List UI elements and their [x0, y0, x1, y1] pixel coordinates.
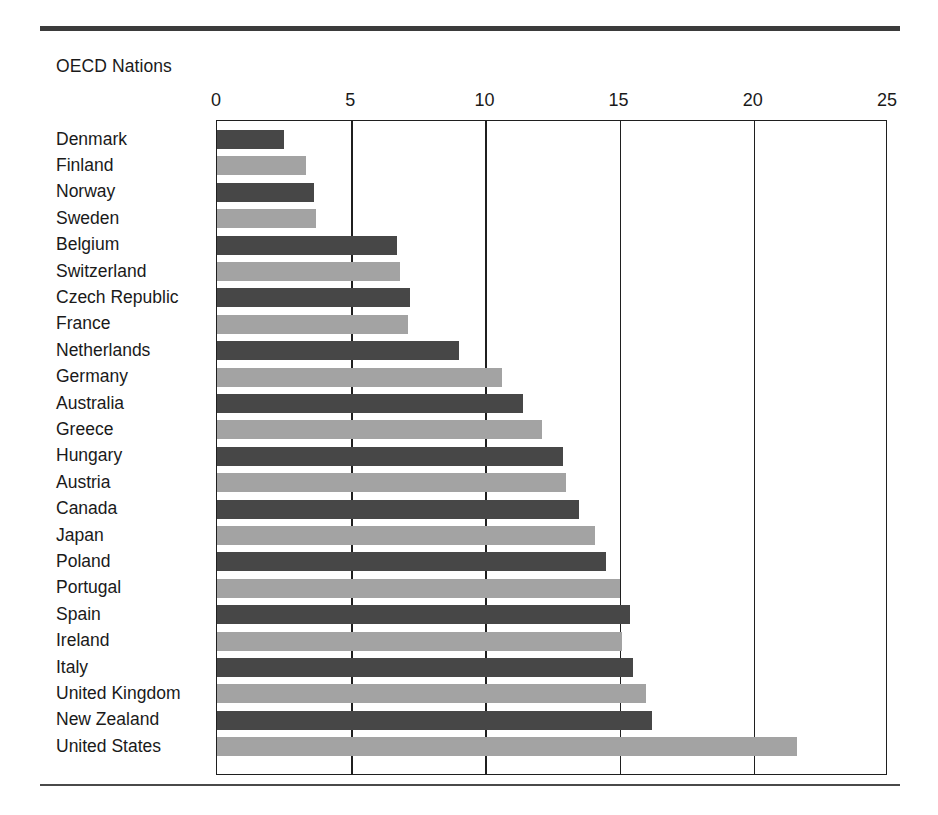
category-label: United Kingdom [56, 685, 181, 703]
gridline-20 [754, 121, 756, 774]
bar [217, 209, 316, 228]
bar [217, 447, 563, 466]
x-tick-label: 5 [345, 90, 355, 111]
x-tick-label: 20 [743, 90, 763, 111]
bottom-rule [40, 784, 900, 786]
bar [217, 183, 314, 202]
category-label: France [56, 315, 110, 333]
category-label: Spain [56, 606, 101, 624]
bar [217, 130, 284, 149]
bar [217, 552, 606, 571]
plot-area [216, 120, 887, 775]
x-tick-label: 25 [877, 90, 897, 111]
bar [217, 473, 566, 492]
bar [217, 579, 620, 598]
bar [217, 394, 523, 413]
bar [217, 368, 502, 387]
bar [217, 605, 630, 624]
bar [217, 658, 633, 677]
category-label: Norway [56, 183, 115, 201]
bar [217, 632, 622, 651]
bar [217, 236, 397, 255]
x-tick-label: 0 [211, 90, 221, 111]
bar [217, 420, 542, 439]
category-label: Portugal [56, 579, 121, 597]
top-rule [40, 26, 900, 31]
category-label: Denmark [56, 131, 127, 149]
category-label: Austria [56, 474, 110, 492]
x-tick-label: 15 [609, 90, 629, 111]
category-label: Australia [56, 395, 124, 413]
category-label: Belgium [56, 236, 119, 254]
category-label: Ireland [56, 632, 110, 650]
category-label: Sweden [56, 210, 119, 228]
chart-figure: OECD Nations 0510152025 DenmarkFinlandNo… [0, 0, 938, 815]
category-label: Canada [56, 500, 117, 518]
bar [217, 315, 408, 334]
bar [217, 262, 400, 281]
category-label: Italy [56, 659, 88, 677]
bar [217, 288, 410, 307]
bar [217, 684, 646, 703]
x-tick-label: 10 [474, 90, 494, 111]
category-label: Germany [56, 368, 128, 386]
category-label: United States [56, 738, 161, 756]
bar [217, 156, 306, 175]
category-label: Czech Republic [56, 289, 179, 307]
category-label: Japan [56, 527, 104, 545]
category-label: Hungary [56, 447, 122, 465]
bar [217, 526, 595, 545]
category-label: Greece [56, 421, 113, 439]
bar [217, 737, 797, 756]
category-label: Poland [56, 553, 111, 571]
bar [217, 500, 579, 519]
chart-caption: OECD Nations [56, 56, 172, 77]
bar [217, 711, 652, 730]
category-label: Finland [56, 157, 113, 175]
category-label: Netherlands [56, 342, 150, 360]
category-label: Switzerland [56, 263, 146, 281]
category-label: New Zealand [56, 711, 159, 729]
bar [217, 341, 459, 360]
